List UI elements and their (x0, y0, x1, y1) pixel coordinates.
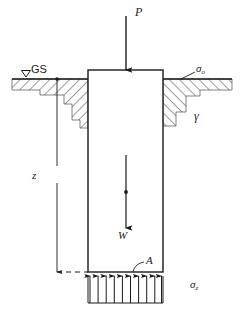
surcharge-leader-line (181, 72, 195, 79)
base-pressure-distribution (88, 276, 163, 303)
label-depth-z: z (32, 170, 36, 181)
depth-dimension-z (55, 77, 59, 272)
sigma-subscript-o: o (201, 68, 204, 75)
ground-surface-triangle-icon (22, 71, 31, 78)
label-unit-weight-gamma: γ (194, 110, 199, 122)
soil-hatch-left (12, 79, 88, 128)
label-base-pressure-sigma-z: σz (190, 279, 198, 292)
diagram-canvas (0, 0, 242, 309)
label-weight-W: W (118, 230, 127, 241)
centroid-dot (124, 190, 128, 194)
label-area-A: A (146, 255, 153, 266)
dimension-top-dot (55, 77, 59, 81)
sigma-subscript-z: z (195, 284, 198, 291)
label-ground-surface: GS (31, 64, 47, 75)
base-pressure-arrows (90, 276, 162, 303)
label-surcharge-sigma-0: σo (196, 63, 205, 76)
label-load-P: P (135, 6, 142, 18)
shaft-load-diagram: P GS σo γ z W A σz (0, 0, 242, 309)
